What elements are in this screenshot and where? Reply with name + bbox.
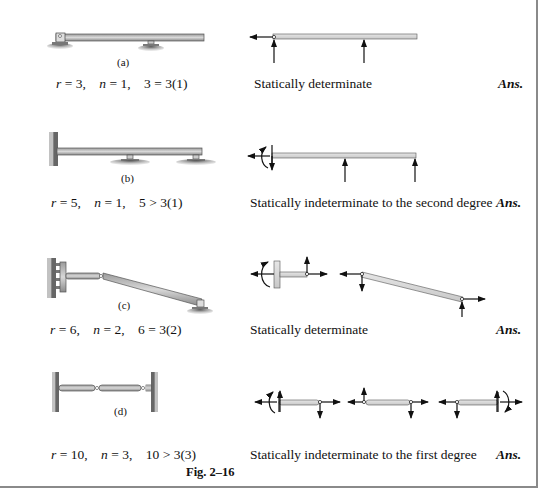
- beam-a: [47, 33, 204, 51]
- beam-b: [49, 132, 216, 166]
- equation-a: r = 3, n = 1, 3 = 3(1): [56, 77, 188, 91]
- ans-c: Ans.: [496, 323, 521, 337]
- sublabel-d: (d): [114, 406, 127, 417]
- symbol-r: r: [50, 322, 55, 337]
- symbol-n: n: [94, 195, 101, 210]
- sublabel-b: (b): [121, 173, 134, 184]
- beam-d: [52, 372, 158, 412]
- value-r: 3: [76, 76, 83, 91]
- free-body-diagram-b: [248, 145, 416, 182]
- symbol-n: n: [99, 76, 106, 91]
- ans-b: Ans.: [496, 196, 521, 210]
- symbol-r: r: [51, 195, 56, 210]
- symbol-r: r: [51, 447, 56, 462]
- relation: 6 = 3(2): [138, 322, 182, 337]
- result-b: Statically indeterminate to the second d…: [250, 196, 493, 210]
- relation: 5 > 3(1): [139, 195, 183, 210]
- equation-c: r = 6, n = 2, 6 = 3(2): [50, 323, 182, 337]
- free-body-diagram-d-1: [255, 391, 340, 418]
- symbol-r: r: [56, 76, 61, 91]
- free-body-diagram-d-2: [348, 388, 428, 418]
- value-r: 10: [71, 447, 85, 462]
- result-c: Statically determinate: [250, 323, 368, 337]
- symbol-n: n: [101, 447, 108, 462]
- value-r: 5: [71, 195, 78, 210]
- relation: 3 = 3(1): [144, 76, 188, 91]
- relation: 10 > 3(3): [146, 447, 196, 462]
- free-body-diagram-d-3: [439, 391, 522, 418]
- value-n: 2: [114, 322, 121, 337]
- result-a: Statically determinate: [254, 77, 372, 91]
- result-d: Statically indeterminate to the first de…: [250, 448, 477, 462]
- equation-b: r = 5, n = 1, 5 > 3(1): [51, 196, 183, 210]
- ans-d: Ans.: [496, 448, 521, 462]
- free-body-diagram-a: [250, 34, 417, 63]
- sublabel-c: (c): [118, 300, 130, 311]
- free-body-diagram-c: [251, 257, 485, 317]
- equation-d: r = 10, n = 3, 10 > 3(3): [51, 448, 196, 462]
- ans-a: Ans.: [498, 77, 523, 91]
- figure-caption: Fig. 2–16: [186, 466, 235, 479]
- value-n: 3: [122, 447, 129, 462]
- value-n: 1: [115, 195, 122, 210]
- value-n: 1: [120, 76, 127, 91]
- value-r: 6: [70, 322, 77, 337]
- sublabel-a: (a): [117, 57, 129, 68]
- symbol-n: n: [93, 322, 100, 337]
